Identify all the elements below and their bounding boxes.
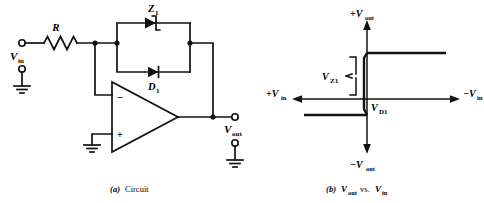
feedback-top-wire (117, 23, 190, 43)
svg-text:−V: −V (350, 159, 364, 170)
axis-label-right: −V in (463, 88, 483, 101)
caption-b: (b) V out vs. V in (326, 184, 388, 196)
svg-text:D: D (147, 81, 156, 92)
axis-down-arrowhead (363, 144, 371, 154)
diode-label: D 1 (147, 81, 160, 95)
svg-text:in: in (281, 94, 287, 101)
svg-text:+V: +V (266, 88, 280, 99)
svg-text:in: in (477, 94, 483, 101)
svg-text:−V: −V (463, 88, 477, 99)
axis-up-arrowhead (363, 20, 371, 30)
svg-text:V: V (322, 71, 330, 82)
vd1-label: V D1 (371, 102, 388, 116)
wire-node-to-inverting-input (95, 43, 112, 95)
axis-label-up: +V out (350, 8, 375, 21)
resistor-label: R (51, 21, 59, 33)
svg-text:in: in (18, 57, 24, 65)
caption-b-vout-sub: out (348, 189, 358, 196)
diode-triangle (148, 67, 159, 77)
svg-text:out: out (365, 14, 375, 21)
diode-symbol (148, 67, 159, 78)
vz1-brace-tip (346, 74, 352, 78)
caption-b-vin-sub: in (382, 189, 388, 196)
axis-label-down: −V out (350, 159, 376, 172)
panel-b-transfer-curve: +V out −V out +V in −V in V Z1 V D1 (266, 8, 483, 196)
figure-limiter-circuit: .w { stroke:#111; stroke-width:1.7; fill… (0, 0, 484, 203)
v-in-label: V in (10, 50, 24, 65)
svg-text:D1: D1 (379, 108, 388, 116)
caption-a-text: Circuit (125, 184, 149, 194)
ground-symbol-input (14, 86, 30, 93)
svg-text:1: 1 (155, 9, 159, 17)
svg-text:+V: +V (350, 8, 364, 19)
caption-b-vout: V (341, 184, 348, 194)
axis-right-arrowhead (450, 95, 460, 103)
caption-a: (a) Circuit (110, 184, 149, 194)
svg-text:Z1: Z1 (330, 77, 339, 85)
v-out-ground-terminal[interactable] (232, 140, 238, 146)
caption-b-letter: (b) (326, 184, 336, 194)
wire-noninverting-to-gnd (92, 134, 112, 145)
output-node-dot (210, 114, 215, 119)
ground-symbol-opamp (84, 145, 100, 152)
feedback-bottom-wire (117, 43, 190, 72)
ground-symbol-output (227, 160, 243, 167)
v-out-label: V out (224, 123, 242, 138)
zener-triangle (145, 18, 156, 29)
v-in-terminal[interactable] (19, 40, 25, 46)
caption-a-letter: (a) (110, 184, 120, 194)
axis-left-arrowhead (292, 95, 302, 103)
opamp-inverting-sign: − (117, 91, 123, 103)
wire-feedback-to-output (190, 43, 213, 117)
vz1-brace (346, 57, 356, 95)
opamp-noninverting-sign: + (117, 128, 123, 140)
svg-text:out: out (366, 165, 376, 172)
svg-text:Z: Z (147, 3, 155, 14)
resistor-symbol (44, 37, 77, 50)
vz1-label: V Z1 (322, 71, 339, 85)
vz1-brace-path (350, 57, 356, 95)
figure-svg: .w { stroke:#111; stroke-width:1.7; fill… (0, 0, 484, 203)
v-in-ground-terminal[interactable] (19, 66, 25, 72)
zener-label: Z 1 (147, 3, 159, 17)
caption-b-vs: vs. (360, 184, 370, 194)
svg-text:1: 1 (156, 87, 160, 95)
v-out-terminal[interactable] (232, 114, 238, 120)
svg-text:V: V (371, 102, 379, 113)
axis-label-left: +V in (266, 88, 287, 101)
caption-b-vin: V (375, 184, 382, 194)
panel-a-circuit: R Z 1 D 1 V in V out − + (a) Cir (10, 3, 243, 194)
svg-text:out: out (232, 130, 242, 138)
